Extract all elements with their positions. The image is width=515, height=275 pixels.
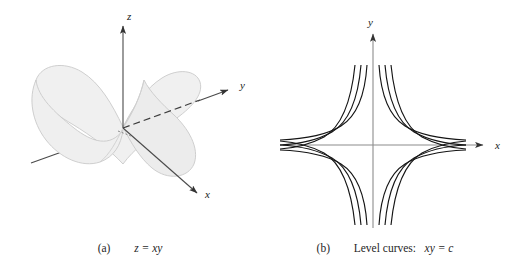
panel-b-tag: (b) — [317, 242, 330, 254]
figure-root: z y x (a) z = xy x — [0, 0, 515, 275]
panel-a-caption: (a) z = xy — [0, 240, 260, 262]
contour-y-axis-label: y — [367, 16, 373, 28]
level-curve — [280, 65, 361, 145]
level-curve — [391, 65, 466, 149]
contour-x-axis-label: x — [494, 139, 500, 151]
level-curve — [280, 141, 355, 225]
hyperbola-quadrant-1 — [379, 65, 466, 149]
level-curve — [280, 145, 361, 225]
panel-a-tag: (a) — [98, 242, 111, 254]
panel-b-caption: (b) Level curves: xy = c — [255, 240, 515, 262]
hyperbola-quadrant-2 — [280, 65, 367, 149]
level-curve — [280, 65, 355, 149]
contour-plot-svg: x y — [255, 0, 515, 240]
panel-a-surface: z y x (a) z = xy — [0, 0, 260, 275]
x-axis-label: x — [204, 188, 210, 200]
panel-b-caption-text: Level curves: — [354, 242, 416, 254]
hyperbola-quadrant-4 — [379, 141, 466, 225]
panel-b-level-curves: x y — [255, 0, 515, 275]
surface-plot-svg: z y x — [0, 0, 260, 240]
level-curve — [385, 145, 466, 225]
level-curve — [385, 65, 466, 145]
level-curve — [391, 141, 466, 225]
saddle-surface — [32, 65, 201, 176]
hyperbola-quadrant-3 — [280, 141, 367, 225]
y-axis — [198, 90, 228, 101]
z-axis-label: z — [126, 10, 132, 22]
panel-a-equation: z = xy — [134, 242, 162, 254]
y-axis-label: y — [239, 79, 245, 91]
panel-b-equation: xy = c — [425, 242, 454, 254]
